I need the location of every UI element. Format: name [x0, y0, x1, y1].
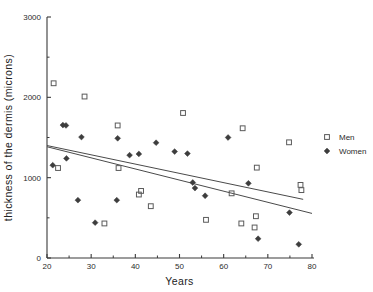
legend-group: MenWomen [324, 133, 366, 156]
data-point-women [172, 149, 178, 155]
data-point-women [202, 193, 208, 199]
data-point-women [75, 197, 81, 203]
legend-label-women: Women [339, 147, 366, 156]
data-point-women [79, 134, 85, 140]
tick-labels-group: 203040506070800100020003000 [23, 13, 317, 271]
data-point-men [254, 165, 259, 170]
x-tick-label: 60 [219, 262, 228, 271]
x-axis-title: Years [165, 275, 193, 287]
x-tick-label: 70 [263, 262, 272, 271]
data-point-men [239, 221, 244, 226]
legend-marker-women [324, 148, 330, 154]
data-point-men [115, 123, 120, 128]
data-point-men [82, 94, 87, 99]
data-point-women [225, 135, 231, 141]
data-point-men [254, 214, 259, 219]
data-point-women [296, 241, 302, 247]
data-point-men [204, 217, 209, 222]
data-point-women [153, 140, 159, 146]
data-point-women [255, 236, 261, 242]
data-point-women [92, 220, 98, 226]
data-point-women [50, 162, 56, 168]
data-points-group [50, 81, 304, 247]
x-tick-label: 80 [308, 262, 317, 271]
data-point-men [298, 182, 303, 187]
data-point-men [102, 221, 107, 226]
legend-label-men: Men [339, 133, 355, 142]
data-point-women [136, 151, 142, 157]
x-tick-label: 30 [87, 262, 96, 271]
data-point-men [299, 188, 304, 193]
data-point-men [56, 166, 61, 171]
data-point-women [127, 152, 133, 158]
chart-figure: 203040506070800100020003000 MenWomen Yea… [0, 0, 373, 292]
y-tick-label: 1000 [23, 174, 41, 183]
data-point-women [287, 210, 293, 216]
data-point-men [148, 204, 153, 209]
data-point-women [190, 180, 196, 186]
data-point-women [114, 197, 120, 203]
data-point-men [287, 140, 292, 145]
regression-lines-group [47, 146, 312, 214]
regression-line-women [47, 147, 312, 214]
data-point-women [192, 185, 198, 191]
legend-marker-men [325, 135, 330, 140]
data-point-women [185, 151, 191, 157]
y-tick-label: 0 [37, 254, 42, 263]
data-point-men [51, 81, 56, 86]
data-point-women [115, 135, 121, 141]
data-point-men [240, 126, 245, 131]
x-tick-label: 50 [175, 262, 184, 271]
y-tick-label: 3000 [23, 13, 41, 22]
data-point-men [181, 111, 186, 116]
data-point-men [116, 166, 121, 171]
data-point-men [252, 225, 257, 230]
axes-group [47, 17, 314, 258]
x-tick-label: 20 [43, 262, 52, 271]
data-point-women [246, 180, 252, 186]
y-tick-label: 2000 [23, 93, 41, 102]
scatter-plot-canvas: 203040506070800100020003000 MenWomen Yea… [0, 0, 373, 292]
x-tick-label: 40 [131, 262, 140, 271]
data-point-women [64, 155, 70, 161]
y-axis-title: thickness of the dermis (microns) [2, 54, 14, 221]
